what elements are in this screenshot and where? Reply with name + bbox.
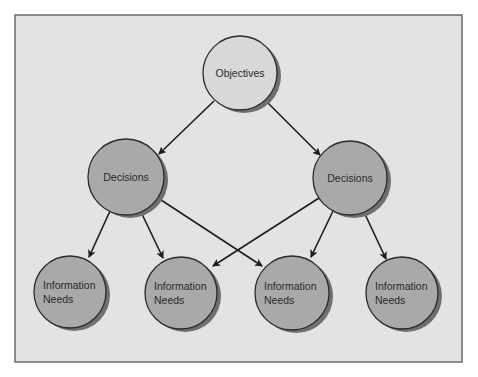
node-label: Needs xyxy=(375,294,405,306)
node-label: Needs xyxy=(264,294,294,306)
node-label: Information xyxy=(264,280,317,292)
node-circle xyxy=(255,256,329,330)
node-circle xyxy=(34,256,106,328)
node-label: Information xyxy=(154,280,207,292)
node-label: Needs xyxy=(43,293,73,305)
node-label: Objectives xyxy=(215,67,264,79)
objectives-decisions-information-needs-diagram: ObjectivesDecisionsDecisionsInformationN… xyxy=(0,0,478,377)
node-label: Information xyxy=(375,280,428,292)
diagram-canvas: ObjectivesDecisionsDecisionsInformationN… xyxy=(0,0,478,377)
node-circle xyxy=(145,257,217,329)
node-label: Needs xyxy=(154,294,184,306)
node-label: Information xyxy=(43,279,96,291)
node-label: Decisions xyxy=(327,172,373,184)
node-circle xyxy=(366,257,438,329)
node-label: Decisions xyxy=(103,171,149,183)
